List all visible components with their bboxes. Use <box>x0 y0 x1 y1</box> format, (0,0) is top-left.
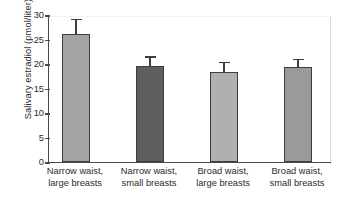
error-bar-cap <box>145 56 156 57</box>
category-label-line-2: large breasts <box>38 178 112 190</box>
error-bar-stem <box>223 62 224 73</box>
y-axis-tick-label: 20 <box>22 60 44 69</box>
error-bar-cap <box>71 19 82 20</box>
bar <box>210 72 238 162</box>
x-axis-category-label: Narrow waist,small breasts <box>112 166 186 189</box>
bar <box>62 34 90 162</box>
y-axis-tick-mark <box>45 15 50 16</box>
y-axis-tick-mark <box>45 40 50 41</box>
category-label-line-1: Narrow waist, <box>47 166 103 176</box>
y-axis-tick-mark <box>45 64 50 65</box>
y-axis-tick-label: 5 <box>22 134 44 143</box>
x-axis-category-label: Broad waist,large breasts <box>186 166 260 189</box>
y-axis-tick-mark <box>45 138 50 139</box>
category-label-line-2: large breasts <box>186 178 260 190</box>
y-axis-tick-mark <box>45 89 50 90</box>
category-label-line-1: Broad waist, <box>271 166 322 176</box>
x-axis-category-labels: Narrow waist,large breastsNarrow waist,s… <box>48 166 331 198</box>
x-axis-category-label: Narrow waist,large breasts <box>38 166 112 189</box>
error-bar-stem <box>297 59 298 68</box>
y-axis-tick-mark <box>45 162 50 163</box>
y-axis-tick-mark <box>45 113 50 114</box>
bar <box>136 66 164 162</box>
bar <box>284 67 312 162</box>
category-label-line-2: small breasts <box>260 178 334 190</box>
error-bar-cap <box>293 59 304 60</box>
category-label-line-1: Narrow waist, <box>121 166 177 176</box>
category-label-line-1: Broad waist, <box>197 166 248 176</box>
y-axis-tick-label: 30 <box>22 11 44 20</box>
error-bar-stem <box>75 19 76 35</box>
error-bar-stem <box>149 56 150 67</box>
x-axis-category-label: Broad waist,small breasts <box>260 166 334 189</box>
y-axis-tick-label: 10 <box>22 109 44 118</box>
y-axis-tick-label: 15 <box>22 85 44 94</box>
error-bar-cap <box>219 62 230 63</box>
bar-chart-figure: Salivary estradiol (pmol/liter) 05101520… <box>0 0 344 198</box>
plot-area <box>48 16 331 163</box>
category-label-line-2: small breasts <box>112 178 186 190</box>
y-axis-tick-label: 25 <box>22 36 44 45</box>
